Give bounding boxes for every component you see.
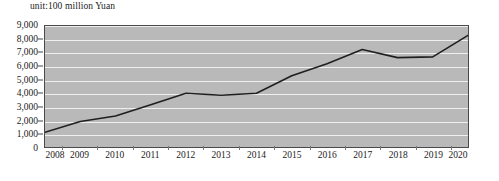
y-tick-mark (38, 120, 43, 121)
x-tick-label: 2020 (449, 150, 468, 160)
x-tick-mark (451, 146, 452, 150)
x-tick-mark (380, 146, 381, 150)
x-tick-mark (62, 146, 63, 150)
x-tick-mark (203, 146, 204, 150)
x-tick-label: 2012 (176, 150, 195, 160)
x-tick-mark (133, 146, 134, 150)
line-chart: unit:100 million Yuan 01,0002,0003,0004,… (0, 0, 499, 181)
y-tick-label: 4,000 (17, 88, 38, 98)
y-tick-label: 5,000 (17, 75, 38, 85)
x-tick-label: 2018 (389, 150, 408, 160)
x-tick-mark (310, 146, 311, 150)
y-tick-label: 0 (33, 143, 38, 153)
y-tick-label: 2,000 (17, 116, 38, 126)
series-line (45, 26, 468, 147)
plot-area (44, 25, 469, 148)
y-tick-label: 3,000 (17, 102, 38, 112)
y-tick-label: 8,000 (17, 34, 38, 44)
x-tick-label: 2017 (353, 150, 372, 160)
x-tick-mark (345, 146, 346, 150)
y-tick-mark (38, 66, 43, 67)
x-tick-mark (239, 146, 240, 150)
y-tick-label: 9,000 (17, 20, 38, 30)
y-tick-label: 6,000 (17, 61, 38, 71)
y-tick-mark (38, 38, 43, 39)
x-tick-label: 2011 (141, 150, 160, 160)
x-tick-mark (168, 146, 169, 150)
x-tick-label: 2009 (70, 150, 89, 160)
x-tick-label: 2013 (212, 150, 231, 160)
x-tick-label: 2008 (46, 150, 65, 160)
y-tick-label: 1,000 (17, 129, 38, 139)
x-axis: 2008200920102011201220132014201520162017… (44, 150, 469, 166)
x-tick-mark (97, 146, 98, 150)
x-tick-mark (274, 146, 275, 150)
y-tick-mark (38, 107, 43, 108)
x-tick-label: 2014 (247, 150, 266, 160)
y-tick-label: 7,000 (17, 47, 38, 57)
unit-annotation: unit:100 million Yuan (30, 1, 115, 11)
x-tick-label: 2019 (424, 150, 443, 160)
x-tick-label: 2015 (282, 150, 301, 160)
y-tick-mark (38, 52, 43, 53)
y-tick-mark (38, 93, 43, 94)
y-axis: 01,0002,0003,0004,0005,0006,0007,0008,00… (0, 25, 41, 148)
y-tick-mark (38, 134, 43, 135)
x-tick-mark (416, 146, 417, 150)
y-tick-mark (38, 79, 43, 80)
x-tick-label: 2016 (318, 150, 337, 160)
x-tick-label: 2010 (105, 150, 124, 160)
